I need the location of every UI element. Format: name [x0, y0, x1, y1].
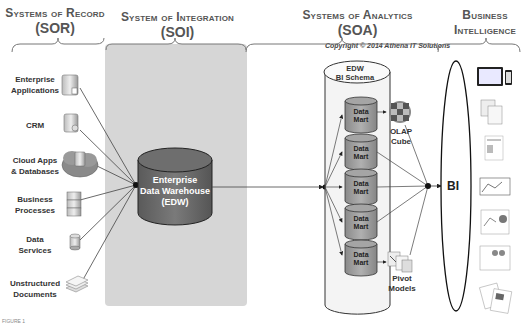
olap-cube-icon: [389, 101, 411, 123]
data-mart-label: DataMart: [346, 145, 376, 161]
section-braces: [12, 38, 520, 52]
bi-label: BI: [447, 179, 459, 193]
spreadsheet-icon: [481, 100, 502, 124]
architecture-diagram: [0, 0, 526, 325]
source-enterprise-applications: Enterprise Applications: [0, 74, 75, 96]
source-data-services: Data Services: [0, 234, 75, 256]
report-icon: [485, 136, 503, 160]
bi-schema-label: EDW BI Schema: [325, 64, 385, 82]
figure-caption: FIGURE 1: [2, 318, 25, 324]
source-unstructured-documents: Unstructured Documents: [0, 278, 75, 300]
data-mart-label: DataMart: [346, 180, 376, 196]
olap-cube-label: OLAPCube: [388, 127, 414, 147]
pivot-models-icon: [388, 252, 412, 272]
tablet-phone-dashboard-icon: [477, 67, 512, 86]
pivot-models-label: PivotModels: [385, 274, 419, 294]
scorecard-icon: [480, 246, 510, 270]
data-mart-label: DataMart: [346, 251, 376, 267]
analytics-dashboard-icon: [481, 210, 509, 234]
data-mart-label: DataMart: [346, 108, 376, 124]
source-business-processes: Business Processes: [0, 194, 75, 216]
chart-dashboard-icon: [480, 178, 510, 195]
source-crm: CRM: [0, 120, 75, 131]
printed-reports-icon: [479, 283, 511, 313]
source-cloud-apps: Cloud Apps & Databases: [0, 155, 75, 177]
edw-label: Enterprise Data Warehouse (EDW): [115, 175, 235, 208]
data-mart-label: DataMart: [346, 215, 376, 231]
